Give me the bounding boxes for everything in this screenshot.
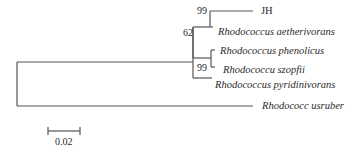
taxon-label-aetherivorans: Rhodococcus aetherivorans xyxy=(218,26,335,38)
taxon-label-ruber: Rhodococc usruber xyxy=(262,100,344,112)
taxon-label-pyridinivorans: Rhodococcus pyridinivorans xyxy=(215,79,335,91)
bootstrap-value-node62: 62 xyxy=(183,27,193,38)
taxon-label-szopfii: Rhodococcu szopfii xyxy=(223,64,305,76)
scale-bar-label: 0.02 xyxy=(55,136,73,147)
taxon-label-jh: JH xyxy=(261,5,273,17)
tree-branches xyxy=(0,0,357,154)
taxon-label-phenolicus: Rhodococcus phenolicus xyxy=(220,45,324,57)
bootstrap-value-phenolicus-szopfii: 99 xyxy=(197,62,207,73)
bootstrap-value-jh-aetherivorans: 99 xyxy=(197,5,207,16)
